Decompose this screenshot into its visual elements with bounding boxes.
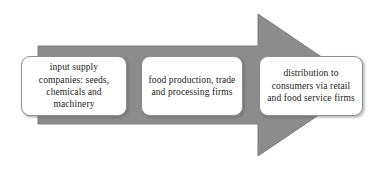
stage-box-production-processing[interactable]: food production, trade and processing fi…	[141, 56, 243, 116]
stage-box-input-supply[interactable]: input supply companies: seeds, chemicals…	[21, 56, 127, 116]
diagram-canvas: input supply companies: seeds, chemicals…	[0, 0, 381, 169]
stage-label-production-processing: food production, trade and processing fi…	[142, 74, 242, 99]
stage-label-distribution: distribution to consumers via retail and…	[260, 67, 362, 104]
stage-box-distribution[interactable]: distribution to consumers via retail and…	[259, 56, 363, 116]
stage-label-input-supply: input supply companies: seeds, chemicals…	[22, 61, 126, 111]
